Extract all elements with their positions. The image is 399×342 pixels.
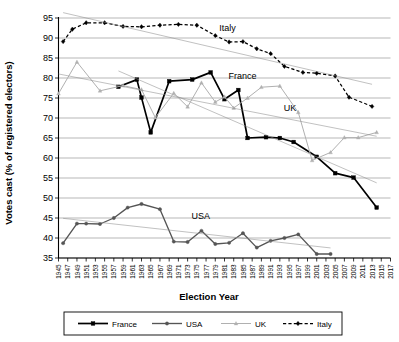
- x-tick-label: 1953: [92, 264, 99, 279]
- data-point-marker: [246, 136, 250, 140]
- x-tick-label: 2001: [313, 264, 320, 279]
- data-point-marker: [301, 70, 305, 74]
- x-tick-label: 1959: [120, 264, 127, 279]
- data-point-marker: [283, 236, 286, 239]
- data-point-marker: [200, 229, 203, 232]
- y-tick-label: 95: [43, 13, 53, 23]
- y-tick-labels-group: 35404550556065707580859095: [43, 13, 59, 263]
- x-tick-label: 2005: [332, 264, 339, 279]
- data-point-marker: [333, 171, 337, 175]
- x-tick-label: 1951: [83, 264, 90, 279]
- data-point-marker: [227, 241, 230, 244]
- legend-item-italy[interactable]: Italy: [283, 320, 332, 329]
- y-tick-label: 80: [43, 73, 53, 83]
- data-point-marker: [241, 232, 244, 235]
- chart-container: 35404550556065707580859095 1945194719491…: [0, 0, 399, 342]
- data-point-marker: [255, 47, 259, 51]
- data-point-marker: [375, 130, 379, 133]
- data-point-marker: [158, 23, 162, 27]
- data-point-marker: [370, 104, 374, 108]
- data-point-marker: [190, 78, 194, 82]
- data-point-marker: [75, 222, 78, 225]
- data-point-marker: [213, 33, 217, 37]
- data-point-marker: [75, 60, 79, 63]
- y-tick-label: 55: [43, 173, 53, 183]
- y-tick-label: 90: [43, 33, 53, 43]
- x-tick-label: 2003: [323, 264, 330, 279]
- x-tick-label: 1991: [267, 264, 274, 279]
- data-point-marker: [236, 88, 240, 92]
- data-point-marker: [158, 208, 161, 211]
- x-tick-label: 1957: [110, 264, 117, 279]
- x-tick-labels-group: 1945194719491951195319551957195919611963…: [55, 258, 394, 279]
- x-axis-title: Election Year: [179, 291, 239, 302]
- data-point-marker: [140, 96, 144, 100]
- x-tick-label: 1983: [230, 264, 237, 279]
- data-point-marker: [214, 242, 217, 245]
- data-point-marker: [209, 71, 213, 75]
- legend-item-label: UK: [255, 320, 267, 329]
- data-point-marker: [140, 202, 143, 205]
- x-tick-label: 1977: [203, 264, 210, 279]
- series-trendline: [59, 74, 377, 136]
- x-tick-label: 2015: [378, 264, 385, 279]
- y-tick-label: 75: [43, 93, 53, 103]
- data-point-marker: [297, 233, 300, 236]
- y-axis-title: Votes cast (% of registered electors): [3, 61, 14, 225]
- data-point-marker: [264, 135, 268, 139]
- data-point-marker: [165, 322, 168, 325]
- data-point-marker: [61, 242, 64, 245]
- annotation-usa: USA: [192, 211, 211, 221]
- x-tick-label: 2007: [341, 264, 348, 279]
- data-point-marker: [186, 240, 189, 243]
- line-chart: 35404550556065707580859095 1945194719491…: [0, 0, 399, 342]
- x-tick-label: 1947: [64, 264, 71, 279]
- y-tick-label: 60: [43, 153, 53, 163]
- x-tick-label: 1945: [55, 264, 62, 279]
- legend-item-label: Italy: [317, 320, 332, 329]
- y-tick-label: 85: [43, 53, 53, 63]
- x-tick-label: 1993: [276, 264, 283, 279]
- x-tick-label: 1979: [212, 264, 219, 279]
- data-point-marker: [255, 246, 258, 249]
- legend-item-usa[interactable]: USA: [152, 320, 203, 329]
- series-italy: [61, 13, 374, 109]
- annotation-uk: UK: [284, 103, 297, 113]
- data-point-marker: [329, 252, 332, 255]
- data-point-marker: [227, 40, 231, 44]
- y-tick-label: 50: [43, 193, 53, 203]
- x-tick-label: 1963: [138, 264, 145, 279]
- legend-item-uk[interactable]: UK: [221, 320, 267, 329]
- x-tick-label: 1997: [295, 264, 302, 279]
- data-point-marker: [98, 222, 101, 225]
- data-point-marker: [296, 321, 300, 325]
- data-point-marker: [375, 206, 379, 210]
- x-tick-label: 1981: [221, 264, 228, 279]
- gridlines-group: [59, 18, 391, 258]
- data-point-marker: [112, 216, 115, 219]
- x-tick-label: 1969: [166, 264, 173, 279]
- data-point-marker: [140, 25, 144, 29]
- x-tick-label: 1973: [184, 264, 191, 279]
- annotation-france: France: [229, 71, 257, 81]
- x-tick-label: 1989: [258, 264, 265, 279]
- data-point-marker: [315, 252, 318, 255]
- y-tick-label: 45: [43, 213, 53, 223]
- axes-group: [59, 17, 391, 258]
- x-tick-label: 1955: [101, 264, 108, 279]
- series-trendline: [63, 218, 330, 248]
- x-tick-label: 1967: [157, 264, 164, 279]
- y-tick-label: 65: [43, 133, 53, 143]
- data-point-marker: [241, 39, 245, 43]
- series-group: [57, 13, 379, 256]
- legend-item-france[interactable]: France: [78, 320, 137, 329]
- x-tick-label: 1975: [193, 264, 200, 279]
- legend-item-label: USA: [186, 320, 203, 329]
- data-point-marker: [172, 240, 175, 243]
- data-point-marker: [167, 79, 171, 83]
- series-line: [59, 62, 377, 160]
- x-tick-label: 2011: [359, 264, 366, 278]
- series-trendline: [63, 13, 372, 85]
- x-tick-label: 1971: [175, 264, 182, 279]
- data-point-marker: [126, 206, 129, 209]
